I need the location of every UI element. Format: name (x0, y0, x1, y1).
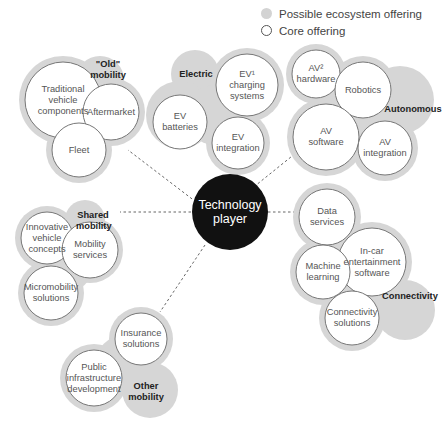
outline-circle-icon (261, 25, 272, 36)
center-label-line1: Technology (198, 198, 261, 212)
legend-core: Core offering (261, 22, 422, 39)
center-label-line2: player (198, 212, 261, 226)
offering-ev-batteries: EVbatteries (153, 95, 207, 149)
offering-insurance-solutions: Insurancesolutions (115, 313, 167, 365)
offering-av-hardware: AV²hardware (292, 50, 340, 98)
legend-ecosystem-label: Possible ecosystem offering (279, 8, 422, 20)
technology-player: Technology player (192, 193, 268, 231)
group-label-electric: Electric (174, 69, 218, 80)
offering-ev-charging-systems: EV¹chargingsystems (216, 54, 278, 116)
offering-connectivity-solutions: Connectivitysolutions (325, 291, 379, 345)
offering-av-software: AVsoftware (293, 104, 359, 170)
offering-micromobility-solutions: Micromobilitysolutions (24, 266, 78, 320)
group-label-other-mobility: Othermobility (126, 381, 166, 403)
offering-av-integration: AVintegration (358, 121, 412, 175)
offering-fleet: Fleet (52, 123, 106, 177)
grey-dot-icon (261, 8, 272, 19)
legend: Possible ecosystem offering Core offerin… (261, 5, 422, 39)
offering-public-infrastructure-development: Publicinfrastructuredevelopment (66, 350, 122, 406)
legend-core-label: Core offering (279, 25, 345, 37)
legend-ecosystem: Possible ecosystem offering (261, 5, 422, 22)
offering-ev-integration: EVintegration (212, 117, 264, 169)
